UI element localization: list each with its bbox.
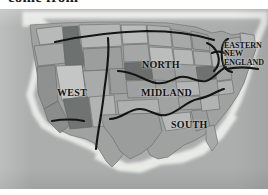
region-label-midland: MIDLAND [141,88,192,98]
clipped-caption-strip: come from [0,0,268,9]
region-label-west: WEST [57,88,87,98]
region-label-north: NORTH [142,60,180,70]
ene-line-3: ENGLAND [224,59,268,67]
clipped-caption-text: come from [8,0,78,6]
us-map-graphic [0,9,268,189]
dialect-regions-map: NORTH MIDLAND WEST SOUTH EASTERN NEW ENG… [0,9,268,189]
region-label-eastern-new-england: EASTERN NEW ENGLAND [224,42,268,67]
region-label-south: SOUTH [171,120,208,130]
